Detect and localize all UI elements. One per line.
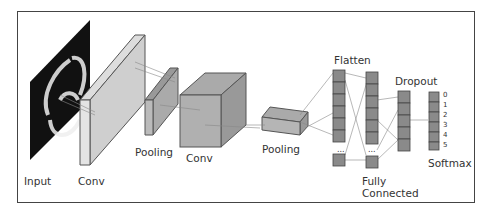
fc-ellipsis: ... (368, 145, 376, 154)
softmax-output-3: 3 (443, 121, 447, 129)
softmax-output-0: 0 (443, 91, 447, 99)
softmax-output-1: 1 (443, 101, 447, 109)
softmax-layer (429, 92, 439, 150)
softmax-output-2: 2 (443, 111, 447, 119)
softmax-output-4: 4 (443, 131, 447, 139)
label-pool2: Pooling (262, 143, 300, 155)
conv2-block (180, 73, 246, 147)
cnn-diagram (0, 0, 494, 214)
label-pool1: Pooling (135, 146, 173, 158)
flatten-ellipsis: ... (337, 145, 345, 154)
label-input: Input (24, 175, 51, 187)
label-softmax: Softmax (428, 157, 472, 169)
label-fc-line1: Fully (362, 175, 386, 187)
label-dropout: Dropout (395, 75, 437, 87)
label-fc-line2: Connected (362, 187, 419, 199)
pool2-block (262, 107, 308, 135)
label-flatten: Flatten (334, 54, 371, 66)
label-conv2: Conv (186, 152, 213, 164)
pool1-block (145, 68, 178, 135)
dropout-layer (398, 91, 410, 151)
label-conv1: Conv (78, 175, 105, 187)
softmax-output-5: 5 (443, 141, 447, 149)
